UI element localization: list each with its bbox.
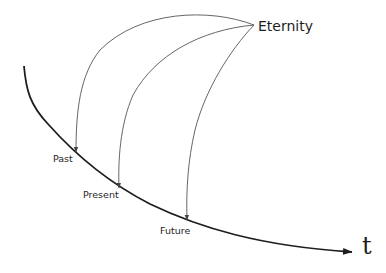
arc-eternity-to-future xyxy=(187,25,254,220)
eternity-time-diagram xyxy=(0,0,386,273)
present-label: Present xyxy=(83,190,119,200)
eternity-label: Eternity xyxy=(258,19,313,33)
arc-eternity-to-past xyxy=(76,15,254,152)
past-label: Past xyxy=(53,154,73,164)
time-axis-label: t xyxy=(362,234,372,258)
future-label: Future xyxy=(160,226,190,236)
